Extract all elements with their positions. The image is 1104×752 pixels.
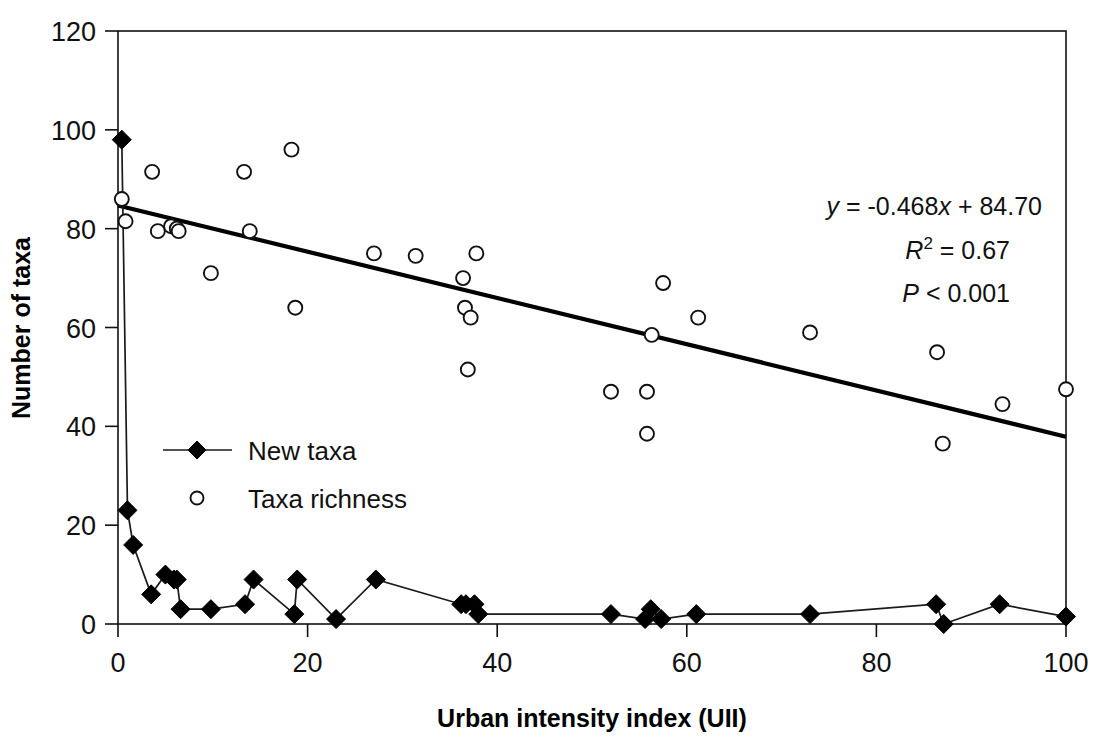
- data-point-filled-diamond: [112, 130, 131, 149]
- p-value: < 0.001: [919, 279, 1010, 307]
- y-tick-label-40: 40: [66, 412, 96, 442]
- legend-item-taxa-richness[interactable]: Taxa richness: [191, 484, 407, 514]
- p-value-line: P < 0.001: [902, 279, 1010, 307]
- data-point-open-circle: [119, 214, 133, 228]
- data-point-open-circle: [115, 192, 129, 206]
- data-point-open-circle: [172, 224, 186, 238]
- data-point-open-circle: [691, 311, 705, 325]
- legend-item-new-taxa[interactable]: New taxa: [163, 436, 357, 466]
- data-point-open-circle: [367, 246, 381, 260]
- y-tick-label-0: 0: [81, 610, 96, 640]
- data-point-open-circle: [1059, 382, 1073, 396]
- r-value: = 0.67: [933, 236, 1010, 264]
- legend-label-taxa-richness: Taxa richness: [248, 484, 407, 514]
- data-point-open-circle: [936, 437, 950, 451]
- data-point-open-circle: [243, 224, 257, 238]
- figure-container: 020406080100120 020406080100 y = -0.468x…: [0, 0, 1104, 752]
- x-tick-label-80: 80: [861, 648, 891, 678]
- data-point-filled-diamond: [601, 605, 620, 624]
- data-point-open-circle: [469, 246, 483, 260]
- data-point-open-circle: [461, 363, 475, 377]
- y-tick-label-100: 100: [51, 116, 96, 146]
- data-point-filled-diamond: [801, 605, 820, 624]
- r-exponent: 2: [923, 234, 932, 253]
- data-point-filled-diamond: [201, 600, 220, 619]
- data-point-open-circle: [151, 224, 165, 238]
- data-point-filled-diamond: [927, 595, 946, 614]
- plot-frame: [118, 31, 1066, 624]
- legend-open-circle-icon: [191, 492, 204, 505]
- y-tick-label-20: 20: [66, 511, 96, 541]
- data-point-filled-diamond: [934, 615, 953, 634]
- plot-border: [118, 31, 1066, 624]
- y-tick-label-120: 120: [51, 17, 96, 47]
- regression-annotation: y = -0.468x + 84.70 R2 = 0.67 P < 0.001: [825, 192, 1042, 307]
- data-point-open-circle: [995, 397, 1009, 411]
- data-point-open-circle: [930, 345, 944, 359]
- data-point-filled-diamond: [687, 605, 706, 624]
- x-tick-label-100: 100: [1043, 648, 1088, 678]
- y-axis-title: Number of taxa: [7, 236, 35, 419]
- p-symbol: P: [902, 279, 919, 307]
- x-tick-label-0: 0: [110, 648, 125, 678]
- legend-label-new-taxa: New taxa: [248, 436, 357, 466]
- data-point-open-circle: [604, 385, 618, 399]
- data-point-open-circle: [640, 427, 654, 441]
- equation-line: y = -0.468x + 84.70: [825, 192, 1042, 220]
- legend-filled-diamond-icon: [188, 441, 206, 459]
- data-point-open-circle: [645, 328, 659, 342]
- data-point-open-circle: [464, 311, 478, 325]
- data-point-open-circle: [145, 165, 159, 179]
- data-point-open-circle: [656, 276, 670, 290]
- data-point-filled-diamond: [124, 535, 143, 554]
- equation-slope: = -0.468: [839, 192, 938, 220]
- data-point-open-circle: [237, 165, 251, 179]
- data-point-open-circle: [640, 385, 654, 399]
- data-point-filled-diamond: [236, 595, 255, 614]
- r-squared-line: R2 = 0.67: [905, 234, 1010, 264]
- x-tick-label-20: 20: [293, 648, 323, 678]
- data-point-filled-diamond: [118, 501, 137, 520]
- data-point-open-circle: [409, 249, 423, 263]
- data-point-open-circle: [204, 266, 218, 280]
- x-axis-title: Urban intensity index (UII): [437, 704, 747, 732]
- data-point-open-circle: [803, 325, 817, 339]
- data-point-filled-diamond: [142, 585, 161, 604]
- legend: New taxa Taxa richness: [163, 436, 407, 514]
- scatter-plot: 020406080100120 020406080100 y = -0.468x…: [0, 0, 1104, 752]
- data-point-filled-diamond: [990, 595, 1009, 614]
- y-tick-label-60: 60: [66, 314, 96, 344]
- data-point-filled-diamond: [171, 600, 190, 619]
- y-axis: 020406080100120: [51, 17, 118, 640]
- data-point-open-circle: [284, 143, 298, 157]
- data-point-open-circle: [456, 271, 470, 285]
- x-tick-label-40: 40: [482, 648, 512, 678]
- data-point-open-circle: [288, 301, 302, 315]
- equation-intercept: + 84.70: [951, 192, 1042, 220]
- x-tick-label-60: 60: [672, 648, 702, 678]
- y-tick-label-80: 80: [66, 215, 96, 245]
- r-symbol: R: [905, 236, 923, 264]
